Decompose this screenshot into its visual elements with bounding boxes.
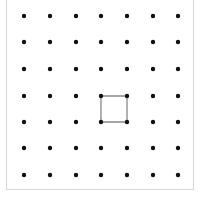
grid-dot[interactable]	[48, 146, 52, 150]
grid-dot[interactable]	[22, 40, 26, 44]
grid-dot[interactable]	[74, 94, 78, 98]
grid-dot[interactable]	[99, 173, 103, 177]
grid-dot[interactable]	[74, 173, 78, 177]
grid-dot[interactable]	[176, 40, 180, 44]
grid-dot[interactable]	[48, 67, 52, 71]
grid-dot[interactable]	[176, 146, 180, 150]
grid-dot[interactable]	[22, 173, 26, 177]
grid-dot[interactable]	[48, 94, 52, 98]
grid-dot[interactable]	[151, 146, 155, 150]
grid-dot[interactable]	[151, 67, 155, 71]
grid-dot[interactable]	[176, 67, 180, 71]
grid-dot[interactable]	[125, 120, 129, 124]
grid-dot[interactable]	[74, 40, 78, 44]
square-shape[interactable]	[101, 96, 127, 122]
grid-dot[interactable]	[99, 120, 103, 124]
grid-dot[interactable]	[151, 14, 155, 18]
grid-dot[interactable]	[176, 94, 180, 98]
grid-dot[interactable]	[151, 173, 155, 177]
dot-grid	[0, 0, 208, 199]
grid-dot[interactable]	[99, 14, 103, 18]
grid-dot[interactable]	[151, 94, 155, 98]
grid-dot[interactable]	[176, 120, 180, 124]
grid-dot[interactable]	[22, 94, 26, 98]
grid-dot[interactable]	[22, 67, 26, 71]
grid-dot[interactable]	[125, 14, 129, 18]
grid-dot[interactable]	[74, 14, 78, 18]
grid-dot[interactable]	[99, 146, 103, 150]
grid-dot[interactable]	[48, 14, 52, 18]
grid-dot[interactable]	[99, 40, 103, 44]
grid-dot[interactable]	[125, 146, 129, 150]
grid-dot[interactable]	[22, 146, 26, 150]
grid-dot[interactable]	[74, 67, 78, 71]
grid-dot[interactable]	[99, 94, 103, 98]
grid-dot[interactable]	[125, 173, 129, 177]
grid-dot[interactable]	[125, 40, 129, 44]
grid-dot[interactable]	[176, 173, 180, 177]
grid-dot[interactable]	[22, 14, 26, 18]
grid-dot[interactable]	[151, 120, 155, 124]
grid-dot[interactable]	[48, 173, 52, 177]
grid-dot[interactable]	[151, 40, 155, 44]
grid-dot[interactable]	[48, 40, 52, 44]
grid-dot[interactable]	[22, 120, 26, 124]
grid-dot[interactable]	[176, 14, 180, 18]
grid-dot[interactable]	[74, 120, 78, 124]
grid-dot[interactable]	[125, 67, 129, 71]
grid-dot[interactable]	[125, 94, 129, 98]
grid-dot[interactable]	[99, 67, 103, 71]
grid-dot[interactable]	[74, 146, 78, 150]
grid-dot[interactable]	[48, 120, 52, 124]
